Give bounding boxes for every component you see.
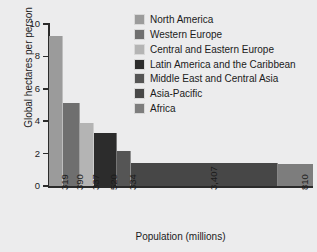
legend-item[interactable]: Western Europe xyxy=(134,28,296,41)
x-tick-label-390: 390 xyxy=(75,174,84,190)
legend-item-label: Asia-Pacific xyxy=(150,88,202,99)
legend-item[interactable]: Africa xyxy=(134,102,296,115)
legend-item[interactable]: Asia-Pacific xyxy=(134,87,296,100)
legend-swatch-icon xyxy=(134,14,145,25)
x-tick-label-520: 520 xyxy=(109,174,118,190)
bar-north-america[interactable] xyxy=(49,36,63,186)
chart-legend: North AmericaWestern EuropeCentral and E… xyxy=(134,13,296,115)
legend-item[interactable]: Latin America and the Caribbean xyxy=(134,57,296,70)
chart-container: Global hectares per person 0246810 31939… xyxy=(0,0,317,252)
y-tick-2 xyxy=(43,153,48,155)
y-tick-label-6: 6 xyxy=(18,84,40,93)
legend-item-label: Middle East and Central Asia xyxy=(150,73,278,84)
legend-item-label: North America xyxy=(150,14,213,25)
legend-swatch-icon xyxy=(134,44,145,55)
y-tick-8 xyxy=(43,56,48,58)
legend-swatch-icon xyxy=(134,88,145,99)
legend-swatch-icon xyxy=(134,59,145,70)
x-tick-label-337: 337 xyxy=(91,174,100,190)
legend-item-label: Latin America and the Caribbean xyxy=(150,59,296,70)
legend-item[interactable]: Middle East and Central Asia xyxy=(134,72,296,85)
x-tick-label-334: 334 xyxy=(128,174,137,190)
x-tick-label-810: 810 xyxy=(300,174,309,190)
y-tick-label-2: 2 xyxy=(18,149,40,158)
legend-item-label: Western Europe xyxy=(150,29,222,40)
y-tick-4 xyxy=(43,120,48,122)
y-tick-6 xyxy=(43,88,48,90)
legend-swatch-icon xyxy=(134,73,145,84)
x-axis-title: Population (millions) xyxy=(48,231,313,242)
x-tick-label-3407: 3,407 xyxy=(209,166,218,190)
y-tick-0 xyxy=(43,185,48,187)
y-tick-label-8: 8 xyxy=(18,51,40,60)
x-tick-label-319: 319 xyxy=(60,174,69,190)
legend-swatch-icon xyxy=(134,29,145,40)
y-tick-10 xyxy=(43,23,48,25)
x-axis-line xyxy=(48,186,313,188)
legend-item-label: Africa xyxy=(150,103,176,114)
legend-item-label: Central and Eastern Europe xyxy=(150,44,274,55)
y-tick-label-0: 0 xyxy=(18,181,40,190)
legend-item[interactable]: North America xyxy=(134,13,296,26)
legend-swatch-icon xyxy=(134,103,145,114)
legend-item[interactable]: Central and Eastern Europe xyxy=(134,43,296,56)
y-tick-label-10: 10 xyxy=(18,19,40,28)
bar-asia-pacific[interactable] xyxy=(131,163,278,186)
y-tick-label-4: 4 xyxy=(18,116,40,125)
